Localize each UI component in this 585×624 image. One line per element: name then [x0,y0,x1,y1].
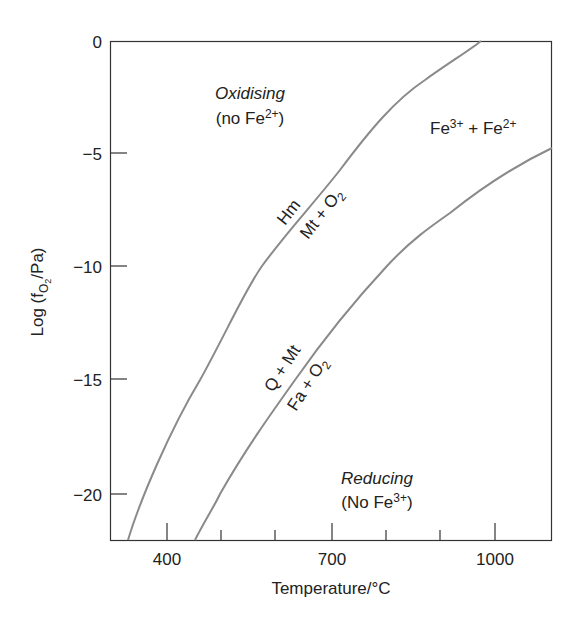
x-axis-title: Temperature/°C [271,579,390,598]
mixed-iron-label: Fe3+ + Fe2+ [430,117,516,138]
y-axis-title: Log (fO2/Pa) [28,247,53,336]
y-tick-label: 0 [93,33,102,52]
reducing-label: Reducing [341,469,413,488]
x-tick-label: 400 [153,550,181,569]
y-tick-label: −15 [73,371,102,390]
hm-label: Hm [273,196,304,229]
oxidising-label: Oxidising [215,84,285,103]
svg-text:Log (fO2/Pa): Log (fO2/Pa) [28,247,53,336]
hm-mt-curve [128,41,481,540]
plot-frame [111,42,552,541]
y-axis: 0 −5 −10 −15 −20 [73,33,127,505]
x-axis: 400 700 1000 [153,523,514,569]
y-tick-label: −5 [83,145,102,164]
y-tick-label: −10 [73,258,102,277]
reducing-sub-label: (No Fe3+) [341,491,412,512]
x-tick-label: 1000 [476,550,514,569]
phase-diagram: 0 −5 −10 −15 −20 400 700 1000 Temperatur… [0,0,585,624]
oxidising-sub-label: (no Fe2+) [216,107,285,128]
y-tick-label: −20 [73,486,102,505]
x-tick-label: 700 [318,550,346,569]
